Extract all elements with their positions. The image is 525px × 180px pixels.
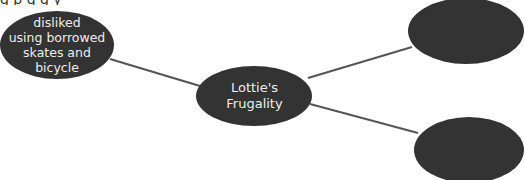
- nodes: [0, 0, 524, 180]
- node-top-right-ellipse[interactable]: [408, 0, 524, 64]
- node-center-ellipse[interactable]: [196, 66, 312, 126]
- edge-left-to-center: [110, 59, 200, 86]
- node-bottom-right-ellipse[interactable]: [414, 117, 524, 180]
- concept-map-canvas: [0, 0, 525, 180]
- edge-center-to-bottom-right: [310, 104, 418, 133]
- edge-center-to-top-right: [308, 47, 412, 78]
- node-left-ellipse[interactable]: [0, 11, 114, 79]
